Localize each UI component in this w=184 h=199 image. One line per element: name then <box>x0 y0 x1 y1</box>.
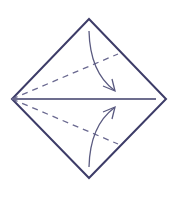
origami-diagram <box>0 0 184 199</box>
fold-up-arrow-icon <box>89 108 114 167</box>
lower-dashed-fold-line <box>12 99 118 144</box>
upper-dashed-fold-line <box>12 54 118 99</box>
